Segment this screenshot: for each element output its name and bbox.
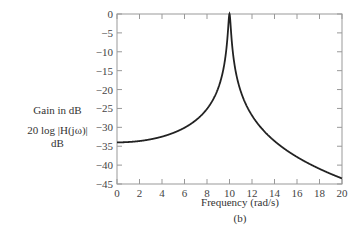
ylabel-line-3: dB bbox=[0, 137, 115, 149]
x-tick-label: 2 bbox=[137, 187, 143, 199]
y-tick-label: 0 bbox=[108, 8, 114, 20]
y-tick-label: −45 bbox=[96, 178, 114, 190]
x-tick-label: 18 bbox=[314, 187, 326, 199]
ylabel-line-1: Gain in dB bbox=[0, 104, 115, 116]
tick-labels: 024681012141618200−5−10−15−20−25−30−35−4… bbox=[96, 8, 348, 199]
y-tick-label: −5 bbox=[101, 27, 113, 39]
figure-caption: (b) bbox=[200, 212, 280, 224]
ylabel-line-2: 20 log |H(jω)| bbox=[0, 124, 115, 136]
x-tick-label: 4 bbox=[159, 187, 165, 199]
plot-axes bbox=[117, 14, 342, 184]
y-tick-label: −10 bbox=[96, 46, 114, 58]
axis-ticks bbox=[117, 14, 342, 184]
y-tick-label: −15 bbox=[96, 65, 114, 77]
gain-curve bbox=[117, 14, 342, 178]
y-tick-label: −40 bbox=[96, 159, 114, 171]
y-tick-label: −20 bbox=[96, 84, 114, 96]
x-axis-label: Frequency (rad/s) bbox=[180, 196, 300, 208]
x-tick-label: 20 bbox=[337, 187, 349, 199]
x-tick-label: 0 bbox=[114, 187, 120, 199]
